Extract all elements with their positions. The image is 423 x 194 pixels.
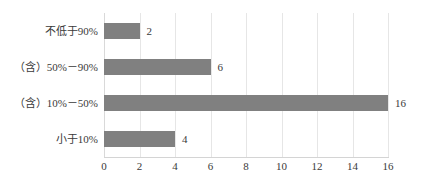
- xtick-16: 16: [383, 160, 394, 172]
- bar-10-50[interactable]: [104, 95, 388, 111]
- category-label-10-50: （含）10%－50%: [14, 85, 98, 121]
- gridline-16: [388, 13, 389, 157]
- bar-value-50-90: 6: [211, 59, 224, 75]
- bar-chart: 不低于90% （含）50%－90% （含）10%－50% 小于10% 2 6: [0, 0, 423, 194]
- bar-row-50-90: 6: [104, 49, 388, 85]
- bar-不低于90[interactable]: [104, 23, 140, 39]
- category-label-不低于90: 不低于90%: [45, 13, 98, 49]
- xtick-12: 12: [312, 160, 323, 172]
- bar-row-小于10: 4: [104, 121, 388, 157]
- bar-value-小于10: 4: [175, 131, 188, 147]
- xtick-4: 4: [172, 160, 178, 172]
- x-axis-tick-labels: 0 2 4 6 8 10 12 14 16: [104, 160, 388, 180]
- bar-series: 2 6 16 4: [104, 13, 388, 157]
- xtick-0: 0: [101, 160, 107, 172]
- bar-小于10[interactable]: [104, 131, 175, 147]
- x-axis-line: [104, 157, 389, 158]
- bar-row-10-50: 16: [104, 85, 388, 121]
- xtick-2: 2: [137, 160, 143, 172]
- xtick-14: 14: [347, 160, 358, 172]
- xtick-10: 10: [276, 160, 287, 172]
- category-axis-labels: 不低于90% （含）50%－90% （含）10%－50% 小于10%: [0, 13, 98, 157]
- bar-value-10-50: 16: [388, 95, 406, 111]
- xtick-6: 6: [208, 160, 214, 172]
- bar-50-90[interactable]: [104, 59, 211, 75]
- bar-row-不低于90: 2: [104, 13, 388, 49]
- category-label-50-90: （含）50%－90%: [14, 49, 98, 85]
- category-label-小于10: 小于10%: [56, 121, 98, 157]
- bar-value-不低于90: 2: [140, 23, 153, 39]
- xtick-8: 8: [243, 160, 249, 172]
- plot-area: 2 6 16 4: [104, 13, 388, 157]
